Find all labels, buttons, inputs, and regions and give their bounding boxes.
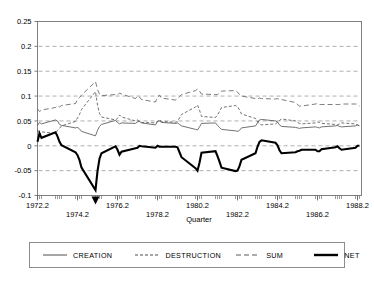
legend-item-net[interactable]: NET — [313, 250, 359, 260]
x-tick-label-upper: 1984.2 — [266, 201, 289, 210]
y-tick-label: -0.1 — [19, 191, 32, 200]
y-tick-label: 0.2 — [21, 42, 31, 51]
y-tick-label: 0.15 — [17, 67, 32, 76]
legend-label-sum: SUM — [266, 251, 283, 260]
y-axis-ticks-group: 0.250.20.150.10.050-0.05-0.1 — [14, 17, 37, 200]
data-series-group — [38, 82, 360, 190]
y-tick-label: 0.1 — [21, 92, 31, 101]
chart-canvas: 0.250.20.150.10.050-0.05-0.1 1972.21976.… — [0, 0, 374, 281]
legend-swatch-destruction-icon — [134, 250, 160, 260]
x-tick-label-lower: 1982.2 — [226, 210, 249, 219]
chart-legend: CREATIONDESTRUCTIONSUMNET — [29, 242, 345, 268]
annotation-group — [92, 197, 100, 205]
x-tick-label-upper: 1988.2 — [346, 201, 369, 210]
x-tick-label-upper: 1980.2 — [186, 201, 209, 210]
legend-swatch-sum-icon — [235, 250, 261, 260]
legend-swatch-net-icon — [313, 250, 339, 260]
chart-figure: 0.250.20.150.10.050-0.05-0.1 1972.21976.… — [0, 0, 374, 281]
legend-entries-container: CREATIONDESTRUCTIONSUMNET — [30, 243, 344, 267]
legend-swatch-creation-icon — [42, 250, 68, 260]
x-tick-label-lower: 1986.2 — [306, 210, 329, 219]
x-axis-minor-ticks-group — [38, 196, 360, 200]
legend-item-creation[interactable]: CREATION — [42, 250, 112, 260]
x-tick-label-upper: 1972.2 — [26, 201, 49, 210]
legend-item-sum[interactable]: SUM — [235, 250, 283, 260]
x-axis-labels-upper: 1972.21976.21980.21984.21988.2 — [26, 201, 369, 210]
x-tick-label-upper: 1976.2 — [106, 201, 129, 210]
legend-label-net: NET — [344, 251, 359, 260]
series-line-net — [38, 132, 360, 190]
x-tick-label-lower: 1978.2 — [146, 210, 169, 219]
legend-item-destruction[interactable]: DESTRUCTION — [134, 250, 221, 260]
legend-label-creation: CREATION — [73, 251, 112, 260]
y-tick-label: 0.25 — [17, 17, 32, 26]
legend-label-destruction: DESTRUCTION — [165, 251, 221, 260]
y-tick-label: 0 — [27, 142, 31, 151]
x-tick-label-lower: 1974.2 — [66, 210, 89, 219]
y-tick-label: -0.05 — [14, 166, 31, 175]
y-tick-label: 0.05 — [17, 117, 32, 126]
x-axis-title: Quarter — [186, 215, 212, 224]
gridlines-group — [39, 22, 361, 196]
peak-marker-icon — [92, 197, 100, 205]
series-line-creation — [38, 119, 360, 135]
plot-frame — [38, 22, 362, 196]
